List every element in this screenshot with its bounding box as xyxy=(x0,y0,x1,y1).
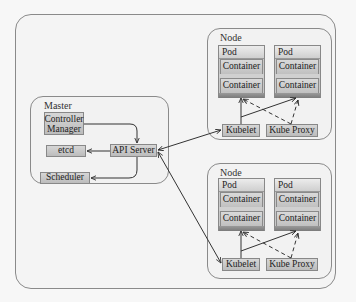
connector-lines xyxy=(0,0,356,302)
